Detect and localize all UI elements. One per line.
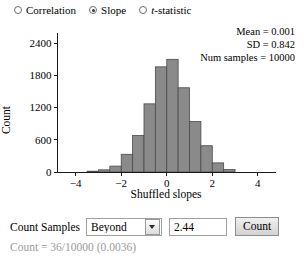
x-tick-label: 4	[255, 177, 261, 189]
stat-num-samples: Num samples = 10000	[200, 51, 295, 64]
count-button[interactable]: Count	[235, 217, 279, 236]
y-tick-label: 2400	[30, 37, 53, 49]
direction-dropdown[interactable]: Beyond	[86, 218, 162, 236]
count-samples-label: Count Samples	[10, 221, 80, 233]
radio-option-correlation[interactable]: Correlation	[14, 5, 76, 16]
direction-dropdown-value: Beyond	[87, 221, 145, 233]
chevron-down-icon[interactable]	[145, 219, 160, 235]
histogram-bar	[201, 146, 212, 172]
histogram-bar	[212, 163, 223, 172]
radio-label-t-statistic: t-statistic	[151, 5, 191, 16]
y-tick-label: 0	[46, 166, 52, 178]
radio-indicator-correlation[interactable]	[14, 6, 22, 14]
stat-mean: Mean = 0.001	[200, 25, 295, 38]
radio-indicator-t-statistic[interactable]	[139, 6, 147, 14]
radio-option-t-statistic[interactable]: t-statistic	[139, 5, 191, 16]
y-axis-label: Count	[0, 105, 12, 134]
count-control-row: Count Samples Beyond 2.44 Count	[10, 217, 279, 236]
x-tick-label: 2	[210, 177, 216, 189]
x-tick-label: −4	[70, 177, 82, 189]
histogram-bar	[178, 88, 189, 172]
histogram-bar	[133, 136, 144, 172]
threshold-input[interactable]: 2.44	[169, 218, 227, 236]
radio-indicator-slope[interactable]	[89, 6, 97, 14]
histogram-bar	[190, 122, 201, 172]
y-tick-label: 600	[35, 134, 52, 146]
histogram-bar	[167, 59, 178, 172]
x-tick-label: −2	[115, 177, 127, 189]
x-axis-label: Shuffled slopes	[130, 188, 202, 201]
statistic-selector: Correlation Slope t-statistic	[0, 0, 305, 20]
y-tick-label: 1200	[30, 101, 53, 113]
count-controls: Count Samples Beyond 2.44 Count Count = …	[0, 205, 305, 259]
histogram-bars	[87, 59, 235, 172]
stat-sd: SD = 0.842	[200, 38, 295, 51]
summary-statistics: Mean = 0.001 SD = 0.842 Num samples = 10…	[200, 25, 295, 64]
count-result-text: Count = 36/10000 (0.0036)	[10, 241, 136, 253]
radio-label-correlation: Correlation	[26, 5, 76, 16]
histogram-bar	[144, 104, 155, 172]
histogram-panel: −4−20240600120018002400 Shuffled slopes …	[0, 20, 305, 205]
y-tick-label: 1800	[30, 69, 53, 81]
histogram-bar	[110, 166, 121, 172]
histogram-bar	[155, 67, 166, 172]
radio-label-slope: Slope	[101, 5, 126, 16]
histogram-bar	[121, 154, 132, 172]
radio-option-slope[interactable]: Slope	[89, 5, 126, 16]
